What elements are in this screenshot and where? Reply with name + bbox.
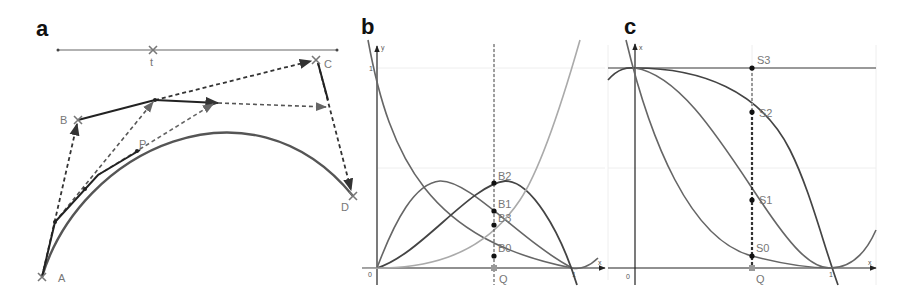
q-handle-b[interactable] [491, 265, 497, 271]
figure-canvas: a t [0, 0, 916, 298]
label-B: B [60, 114, 67, 126]
point-s3[interactable] [749, 65, 754, 70]
label-Q-c: Q [756, 273, 765, 285]
panel-label-c: c [624, 14, 636, 39]
grid-b [378, 45, 608, 280]
label-S3: S3 [757, 54, 770, 66]
label-A: A [58, 272, 66, 284]
x-tick-1-c: 1 [829, 271, 833, 278]
y-tick-1-b: 1 [369, 65, 373, 72]
label-Q-b: Q [499, 273, 508, 285]
t-label: t [150, 56, 153, 68]
point-b3[interactable] [491, 222, 496, 227]
label-P: P [139, 138, 146, 150]
panel-a: a t [36, 16, 357, 284]
origin-label-b: 0 [368, 271, 372, 278]
curve-b0 [368, 40, 598, 269]
point-b1[interactable] [491, 208, 496, 213]
label-B1: B1 [498, 198, 511, 210]
point-s0[interactable] [749, 253, 754, 258]
bezier-curve [42, 133, 353, 277]
control-point-c[interactable] [312, 56, 320, 64]
point-s2[interactable] [749, 109, 754, 114]
label-B0: B0 [498, 242, 511, 254]
q-handle-c[interactable] [749, 265, 755, 271]
curve-b3 [362, 40, 580, 268]
point-b2[interactable] [491, 180, 496, 185]
label-B2: B2 [498, 170, 511, 182]
y-axis-label-b: y [381, 44, 385, 52]
x-axis-label-c: x [868, 259, 872, 266]
label-S0: S0 [756, 242, 769, 254]
point-s1[interactable] [749, 197, 754, 202]
label-B3: B3 [498, 212, 511, 224]
panel-label-b: b [361, 14, 374, 39]
x-axis-label-b: x [598, 259, 602, 266]
panel-label-a: a [36, 16, 49, 41]
point-b0[interactable] [491, 253, 496, 258]
t-slider[interactable] [57, 46, 339, 54]
panel-c: c x x 0 1 Q S3 S2 S1 S0 [608, 14, 876, 285]
curve-b1 [377, 181, 572, 268]
grid-c [608, 45, 876, 285]
origin-label-c: 0 [626, 273, 630, 280]
control-point-d[interactable] [349, 192, 357, 200]
label-D: D [341, 201, 349, 213]
label-C: C [324, 58, 332, 70]
panel-b: b y x 1 0 1 Q B2 B1 [361, 14, 608, 285]
label-S2: S2 [759, 107, 772, 119]
label-S1: S1 [759, 194, 772, 206]
y-axis-label-c: x [639, 44, 643, 51]
